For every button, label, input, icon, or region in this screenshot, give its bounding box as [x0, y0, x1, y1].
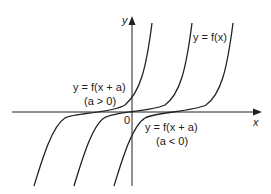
- label-right-equation: y = f(x + a): [145, 121, 198, 133]
- origin-label: 0: [124, 114, 130, 126]
- label-left-condition: (a > 0): [84, 95, 116, 107]
- label-original: y = f(x): [193, 31, 227, 43]
- y-axis-arrow-icon: [129, 16, 136, 25]
- x-axis-arrow-icon: [253, 109, 262, 116]
- y-axis-label: y: [122, 14, 128, 26]
- label-right-condition: (a < 0): [156, 135, 188, 147]
- x-axis-label: x: [253, 116, 259, 128]
- graph-canvas: [0, 0, 271, 194]
- diagram: y x 0 y = f(x) y = f(x + a) (a > 0) y = …: [0, 0, 271, 194]
- label-left-equation: y = f(x + a): [73, 81, 126, 93]
